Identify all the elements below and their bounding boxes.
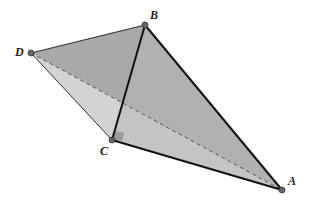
vertex-a-point: [279, 187, 285, 193]
vertex-c-label: C: [100, 144, 108, 159]
tetrahedron-diagram: B D C A: [0, 0, 310, 205]
diagram-svg: [0, 0, 310, 205]
vertex-d-point: [28, 50, 34, 56]
vertex-b-point: [142, 22, 148, 28]
vertex-c-point: [109, 137, 115, 143]
vertex-b-label: B: [150, 8, 158, 23]
vertex-a-label: A: [288, 174, 296, 189]
vertex-d-label: D: [15, 45, 24, 60]
